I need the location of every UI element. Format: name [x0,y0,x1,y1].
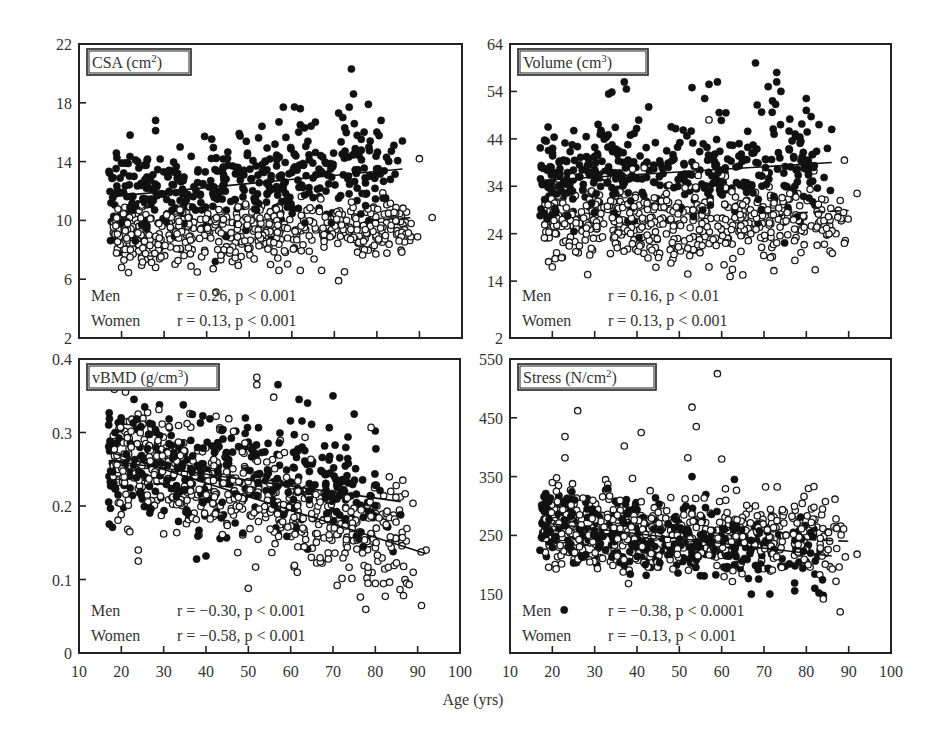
data-point-men [754,160,761,167]
data-point-women [554,498,560,504]
data-point-men [288,479,295,486]
data-point-women [639,215,645,221]
data-point-men [130,396,137,403]
data-point-women [372,220,378,226]
data-point-women [418,602,424,608]
data-point-women [228,230,234,236]
data-point-women [639,543,645,549]
data-point-women [349,575,355,581]
data-point-women [820,596,826,602]
data-point-men [681,161,688,168]
data-point-women [238,253,244,259]
data-point-men [677,524,684,531]
data-point-men [218,514,225,521]
data-point-women [545,202,551,208]
data-point-women [558,255,564,261]
data-point-men [790,155,797,162]
data-point-men [803,107,810,114]
data-point-women [292,531,298,537]
data-point-women [211,463,217,469]
data-point-women [314,530,320,536]
data-point-men [336,454,343,461]
data-point-women [695,553,701,559]
data-point-men [358,156,365,163]
data-point-women [821,241,827,247]
data-point-men [633,125,640,132]
data-point-men [537,175,544,182]
data-point-women [783,218,789,224]
data-point-women [621,556,627,562]
data-point-women [162,242,168,248]
data-point-women [306,248,312,254]
data-point-men [193,556,200,563]
data-point-men [280,104,287,111]
data-point-men [342,444,349,451]
data-point-women [799,500,805,506]
data-point-men [293,454,300,461]
data-point-men [657,527,664,534]
data-point-women [212,511,218,517]
data-point-women [142,250,148,256]
data-point-men [680,127,687,134]
legend-group-men: Men [522,287,551,304]
panel-title: vBMD (g/cm3) [87,364,219,390]
data-point-men [621,78,628,85]
data-point-women [648,221,654,227]
data-point-men [321,442,328,449]
data-point-men [349,481,356,488]
x-tick-label: 90 [410,663,426,680]
data-point-women [791,226,797,232]
data-point-men [299,184,306,191]
data-point-women [721,262,727,268]
data-point-men [340,486,347,493]
data-point-men [152,127,159,134]
data-point-women [761,232,767,238]
data-point-men [782,163,789,170]
data-point-men [322,482,329,489]
data-point-men [812,557,819,564]
data-point-men [371,185,378,192]
data-point-men [223,176,230,183]
data-point-women [638,499,644,505]
data-point-women [307,205,313,211]
data-point-women [606,493,612,499]
data-point-men [719,191,726,198]
data-point-men [295,129,302,136]
data-point-men [327,493,334,500]
data-point-men [260,169,267,176]
panel-title: Volume (cm3) [518,49,648,75]
data-point-men [700,530,707,537]
data-point-women [300,525,306,531]
data-point-men [688,171,695,178]
data-point-men [591,209,598,216]
data-point-women [738,233,744,239]
data-point-women [267,526,273,532]
data-point-women [817,545,823,551]
data-point-men [181,486,188,493]
data-point-men [133,416,140,423]
data-point-women [226,416,232,422]
data-point-men [346,104,353,111]
data-point-men [351,120,358,127]
x-tick-label: 30 [587,663,603,680]
data-point-men [236,130,243,137]
data-point-men [800,149,807,156]
data-point-men [561,139,568,146]
data-point-men [239,193,246,200]
data-point-women [174,231,180,237]
data-point-women [281,248,287,254]
data-point-women [647,488,653,494]
data-point-women [644,232,650,238]
data-point-men [325,180,332,187]
data-point-men [546,516,553,523]
data-point-women [541,235,547,241]
data-point-women [719,456,725,462]
data-point-men [594,152,601,159]
data-point-men [793,166,800,173]
data-point-men [586,161,593,168]
data-point-women [218,252,224,258]
data-point-women [576,243,582,249]
data-point-men [265,182,272,189]
data-point-women [271,239,277,245]
data-point-women [265,246,271,252]
